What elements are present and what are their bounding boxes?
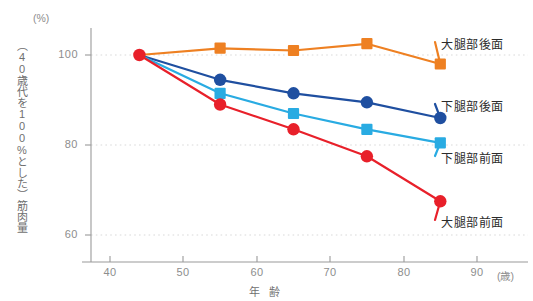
- y-tick-label-80: 80: [44, 138, 78, 150]
- series-label-lowerleg-posterior: 下腿部後面: [441, 97, 504, 114]
- data-point-marker: [215, 88, 226, 99]
- data-point-marker: [133, 49, 145, 61]
- y-axis-ticks: [85, 55, 91, 235]
- x-axis-unit-label: (歳): [497, 268, 514, 283]
- data-point-marker: [361, 38, 372, 49]
- x-axis-title: 年 齢: [249, 283, 283, 299]
- data-point-marker: [214, 74, 226, 86]
- series-4: [133, 49, 446, 208]
- data-point-marker: [361, 96, 373, 108]
- series-1: [139, 38, 446, 70]
- series-label-thigh-posterior: 大腿部後面: [441, 35, 504, 52]
- data-point-marker: [215, 43, 226, 54]
- series-layer: [133, 38, 446, 207]
- x-tick-label-50: 50: [163, 266, 203, 278]
- data-point-marker: [288, 108, 299, 119]
- data-point-marker: [288, 45, 299, 56]
- y-tick-label-60: 60: [44, 228, 78, 240]
- x-tick-label-90: 90: [457, 266, 497, 278]
- series-label-lowerleg-anterior: 下腿部前面: [441, 149, 504, 166]
- x-tick-label-70: 70: [310, 266, 350, 278]
- y-axis-title: （40歳代を100%とした）筋肉量: [8, 40, 28, 270]
- data-point-marker: [287, 123, 299, 135]
- series-label-thigh-anterior: 大腿部前面: [441, 213, 504, 230]
- mass-vs-age-line-chart: (%) (歳) 100 80 60 40 50 60 70 80 90 （40歳…: [0, 0, 533, 301]
- data-point-marker: [361, 124, 372, 135]
- data-point-marker: [287, 87, 299, 99]
- x-tick-label-60: 60: [237, 266, 277, 278]
- y-tick-label-100: 100: [44, 48, 78, 60]
- data-point-marker: [214, 98, 226, 110]
- x-axis-ticks: [110, 256, 477, 262]
- x-tick-label-40: 40: [90, 266, 130, 278]
- y-axis-unit-label: (%): [33, 12, 49, 24]
- data-point-marker: [361, 150, 373, 162]
- x-tick-label-80: 80: [384, 266, 424, 278]
- gridlines: [91, 55, 528, 235]
